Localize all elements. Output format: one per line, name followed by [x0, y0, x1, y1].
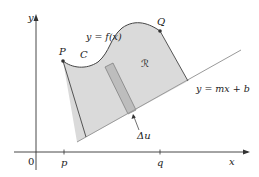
point-label-q: Q — [157, 16, 165, 27]
strip-pointer-arrow-icon — [132, 114, 136, 119]
strip-pointer — [134, 117, 139, 130]
curve-equation-label: y = f(x) — [85, 31, 122, 42]
curve-label-c: C — [80, 49, 88, 60]
region-label: ℛ — [141, 58, 149, 69]
tick-label-q: q — [157, 157, 163, 168]
tick-label-p: p — [61, 157, 68, 168]
diagram: y x 0 p q P Q C y = f(x) y = mx + b ℛ Δu — [0, 0, 259, 177]
y-axis-label: y — [27, 12, 34, 23]
x-axis-arrow-icon — [243, 150, 250, 155]
line-equation-label: y = mx + b — [195, 83, 250, 94]
point-q — [158, 29, 162, 33]
x-axis-label: x — [229, 156, 235, 167]
point-p — [61, 59, 65, 63]
strip-label: Δu — [136, 130, 151, 141]
y-axis-arrow-icon — [34, 14, 39, 21]
point-label-p: P — [58, 46, 66, 57]
origin-label: 0 — [28, 156, 34, 167]
